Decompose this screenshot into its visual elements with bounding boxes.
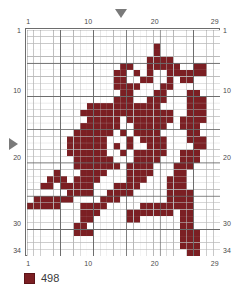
stitch-grid[interactable]	[25, 28, 220, 256]
axis-tick-label: 20	[145, 260, 165, 268]
axis-tick-label: 10	[78, 260, 98, 268]
axis-tick-label: 10	[223, 87, 243, 95]
axis-tick-label: 29	[205, 260, 225, 268]
axis-tick-label: 20	[223, 154, 243, 162]
axis-tick-label: 10	[1, 87, 21, 95]
axis-tick-label: 1	[1, 27, 21, 35]
axis-tick-label: 34	[1, 247, 21, 255]
axis-tick-label: 30	[223, 220, 243, 228]
center-column-marker-icon	[115, 9, 127, 18]
axis-tick-label: 34	[223, 247, 243, 255]
legend: 498	[24, 273, 59, 284]
axis-tick-label: 29	[205, 18, 225, 26]
axis-tick-label: 20	[1, 154, 21, 162]
axis-tick-label: 1	[223, 27, 243, 35]
axis-tick-label: 30	[1, 220, 21, 228]
axis-tick-label: 10	[78, 18, 98, 26]
legend-color-code: 498	[41, 273, 59, 284]
pattern-page: 1102029 1102029 110203034 110203034 498	[0, 0, 244, 294]
axis-tick-label: 1	[18, 260, 38, 268]
axis-tick-label: 20	[145, 18, 165, 26]
legend-color-swatch	[24, 273, 35, 284]
axis-tick-label: 1	[18, 18, 38, 26]
center-row-marker-icon	[9, 138, 18, 150]
stitch-grid-canvas[interactable]	[27, 30, 220, 256]
